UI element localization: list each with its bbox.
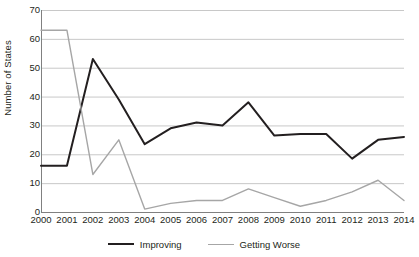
series-line-improving: [41, 59, 404, 166]
legend-item-improving[interactable]: Improving: [108, 239, 182, 250]
legend-label: Getting Worse: [240, 239, 301, 250]
legend-label: Improving: [140, 239, 182, 250]
x-axis-tick-labels: 2000200120022003200420052006200720082009…: [0, 214, 408, 230]
line-swatch-black: [108, 243, 134, 245]
series-line-getting-worse: [41, 30, 404, 209]
legend-item-getting-worse[interactable]: Getting Worse: [208, 239, 301, 250]
line-swatch-gray: [208, 244, 234, 245]
chart-legend: ImprovingGetting Worse: [0, 234, 408, 254]
gridlines: [41, 11, 404, 213]
x-tick-label-2014: 2014: [388, 214, 419, 225]
